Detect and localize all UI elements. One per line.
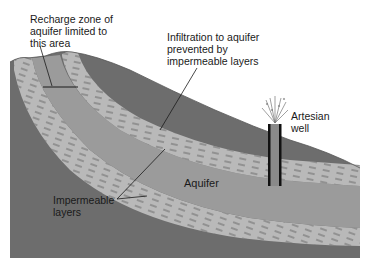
water-spray-icon (262, 96, 288, 123)
impermeable-layers-label: Impermeable layers (53, 194, 114, 218)
aquifer-label: Aquifer (184, 177, 219, 189)
recharge-zone-label: Recharge zone of aquifer limited to this… (30, 13, 113, 49)
infiltration-label: Infiltration to aquifer prevented by imp… (167, 31, 259, 67)
artesian-well-label: Artesian well (291, 110, 330, 134)
